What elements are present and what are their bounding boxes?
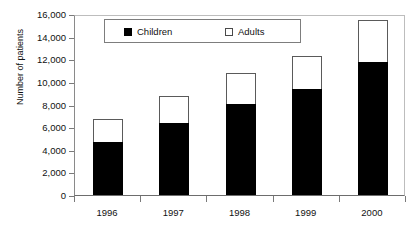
bar-segment-children-1996	[93, 142, 123, 195]
y-axis-tick-label: 16,000	[8, 10, 66, 20]
x-axis-tick-mark	[140, 196, 141, 202]
y-axis-tick-label: 14,000	[8, 33, 66, 43]
bar-segment-children-1999	[292, 89, 322, 195]
legend-label-adults: Adults	[238, 27, 264, 37]
x-axis-tick-label-1998: 1998	[210, 208, 270, 218]
y-axis-tick-label: 4,000	[8, 146, 66, 156]
x-axis-tick-label-1996: 1996	[77, 208, 137, 218]
bar-chart: Number of patients 02,0004,0006,0008,000…	[0, 0, 414, 232]
legend-swatch-children-icon	[124, 28, 132, 36]
y-axis-tick-label: 10,000	[8, 78, 66, 88]
legend-swatch-adults-icon	[225, 28, 233, 36]
bar-group-2000	[358, 14, 388, 195]
x-axis-tick-mark	[206, 196, 207, 202]
x-axis-tick-mark	[339, 196, 340, 202]
x-axis-tick-mark	[74, 196, 75, 202]
y-axis-tick-label: 12,000	[8, 55, 66, 65]
x-axis-tick-mark	[405, 196, 406, 202]
y-axis-tick-label: 8,000	[8, 101, 66, 111]
legend-label-children: Children	[137, 27, 172, 37]
bar-segment-children-1997	[159, 123, 189, 195]
x-axis-tick-label-2000: 2000	[342, 208, 402, 218]
legend-item-adults: Adults	[225, 25, 264, 38]
y-axis-title: Number of patients	[15, 2, 25, 132]
x-axis-tick-label-1999: 1999	[276, 208, 336, 218]
y-axis-tick-label: 2,000	[8, 168, 66, 178]
bar-segment-children-2000	[358, 62, 388, 195]
y-axis-tick-label: 0	[8, 191, 66, 201]
x-axis-tick-mark	[273, 196, 274, 202]
legend-item-children: Children	[124, 25, 172, 38]
x-axis-tick-label-1997: 1997	[143, 208, 203, 218]
chart-legend: Children Adults	[104, 19, 301, 43]
bar-segment-children-1998	[226, 104, 256, 195]
y-axis-tick-label: 6,000	[8, 123, 66, 133]
